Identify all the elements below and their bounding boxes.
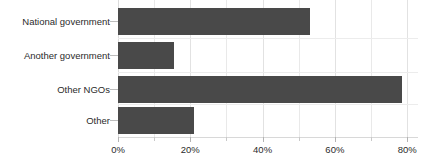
x-tick-30 bbox=[226, 137, 227, 141]
category-tick bbox=[110, 120, 118, 121]
x-tick-70 bbox=[371, 137, 372, 141]
x-tick-label: 80% bbox=[398, 144, 417, 156]
bar-other bbox=[118, 107, 194, 134]
category-tick bbox=[110, 21, 118, 22]
plot-area bbox=[118, 0, 418, 137]
category-tick bbox=[110, 55, 118, 56]
bar-chart: National government Another government O… bbox=[0, 0, 425, 164]
horizontal-gridline bbox=[118, 38, 418, 39]
x-tick-label: 20% bbox=[181, 144, 200, 156]
x-tick-label: 40% bbox=[253, 144, 272, 156]
x-tick-10 bbox=[154, 137, 155, 141]
x-tick-60 bbox=[335, 137, 336, 142]
x-tick-50 bbox=[299, 137, 300, 141]
x-tick-80 bbox=[407, 137, 408, 142]
category-label: Another government bbox=[0, 50, 110, 61]
x-tick-0 bbox=[118, 137, 119, 142]
category-label: National government bbox=[0, 16, 110, 27]
horizontal-gridline bbox=[118, 104, 418, 105]
x-tick-40 bbox=[263, 137, 264, 142]
category-label: Other bbox=[0, 115, 110, 126]
x-tick-20 bbox=[190, 137, 191, 142]
x-tick-label: 60% bbox=[325, 144, 344, 156]
gridline-80 bbox=[407, 0, 408, 137]
category-label: Other NGOs bbox=[0, 84, 110, 95]
horizontal-gridline bbox=[118, 72, 418, 73]
bar-national-government bbox=[118, 8, 310, 35]
gridline-60 bbox=[335, 0, 336, 137]
gridline-70 bbox=[371, 0, 372, 137]
x-tick-label: 0% bbox=[111, 144, 125, 156]
bar-other-ngos bbox=[118, 76, 402, 103]
category-tick bbox=[110, 89, 118, 90]
bar-another-government bbox=[118, 42, 174, 69]
x-axis-ticks bbox=[118, 137, 418, 142]
category-axis: National government Another government O… bbox=[0, 0, 110, 140]
x-axis-tick-labels: 0% 20% 40% 60% 80% bbox=[118, 144, 418, 160]
